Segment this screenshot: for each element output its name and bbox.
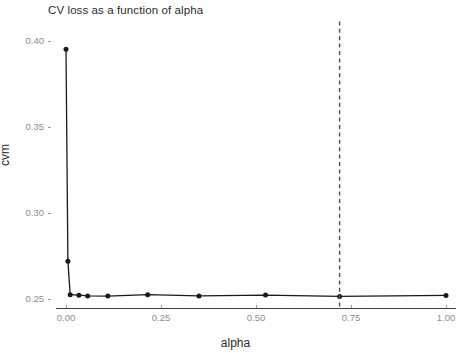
plot-panel xyxy=(56,20,456,308)
x-tick-label-000: 0.00 xyxy=(57,312,76,323)
chart-figure: CV loss as a function of alpha 0.40 0.35… xyxy=(0,0,471,362)
x-tick-mark-100 xyxy=(446,305,447,308)
x-tick-mark-050 xyxy=(256,305,257,308)
x-tick-label-050: 0.50 xyxy=(247,312,266,323)
data-point xyxy=(444,293,449,298)
plot-svg xyxy=(56,20,456,308)
series-points xyxy=(64,47,449,299)
y-tick-mark-035 xyxy=(48,127,51,128)
chart-title: CV loss as a function of alpha xyxy=(48,4,203,16)
y-tick-label-025: 0.25 xyxy=(26,293,45,304)
data-point xyxy=(85,293,90,298)
data-point xyxy=(197,293,202,298)
x-tick-label-075: 0.75 xyxy=(342,312,361,323)
data-point xyxy=(105,294,110,299)
y-tick-label-035: 0.35 xyxy=(26,121,45,132)
data-point xyxy=(145,292,150,297)
y-tick-mark-040 xyxy=(48,41,51,42)
x-tick-mark-025 xyxy=(161,305,162,308)
y-tick-label-040: 0.40 xyxy=(26,35,45,46)
y-tick-label-030: 0.30 xyxy=(26,207,45,218)
y-axis-ticks: 0.40 0.35 0.30 0.25 xyxy=(0,0,44,362)
x-tick-label-025: 0.25 xyxy=(152,312,171,323)
data-point xyxy=(76,293,81,298)
data-point xyxy=(68,292,73,297)
data-series-cvm xyxy=(64,47,449,299)
series-line xyxy=(66,49,446,296)
data-point xyxy=(64,47,69,52)
x-axis-label: alpha xyxy=(0,336,471,350)
x-axis-line xyxy=(56,308,456,309)
y-tick-mark-025 xyxy=(48,299,51,300)
x-tick-mark-000 xyxy=(66,305,67,308)
y-tick-mark-030 xyxy=(48,213,51,214)
data-point xyxy=(263,293,268,298)
x-tick-mark-075 xyxy=(351,305,352,308)
y-axis-label: cvm xyxy=(0,144,12,166)
data-point xyxy=(65,259,70,264)
x-tick-label-100: 1.00 xyxy=(437,312,456,323)
